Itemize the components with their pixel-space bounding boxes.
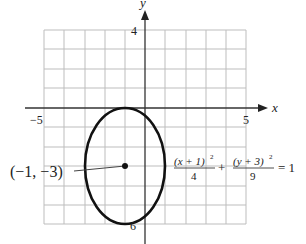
center-leader-line (74, 166, 125, 171)
eq-exponent-2: 2 (269, 153, 273, 161)
x-axis-arrow-icon (258, 104, 268, 112)
tick-label-5: 5 (243, 113, 249, 127)
eq-denominator-1: 4 (191, 170, 197, 182)
tick-label-neg5: −5 (30, 113, 43, 127)
eq-numerator-2: (y + 3) (233, 155, 264, 168)
eq-exponent-1: 2 (210, 153, 214, 161)
x-axis-label: x (271, 100, 278, 115)
eq-denominator-2: 9 (250, 170, 256, 182)
tick-label-4: 4 (131, 24, 137, 38)
tick-label-neg6: 6 (130, 219, 136, 233)
ellipse-equation: (x + 1) 2 4 + (y + 3) 2 9 = 1 (174, 153, 295, 182)
eq-plus: + (218, 160, 225, 175)
y-axis-label: y (138, 0, 146, 10)
y-axis-arrow-icon (141, 10, 149, 20)
eq-equals-one: = 1 (278, 160, 295, 175)
center-point-label: (−1, −3) (10, 163, 63, 181)
center-point (122, 163, 128, 169)
ellipse-graph: x y −5 5 4 6 (−1, −3) (x + 1) 2 4 + (y +… (0, 0, 306, 244)
eq-numerator-1: (x + 1) (174, 155, 205, 168)
